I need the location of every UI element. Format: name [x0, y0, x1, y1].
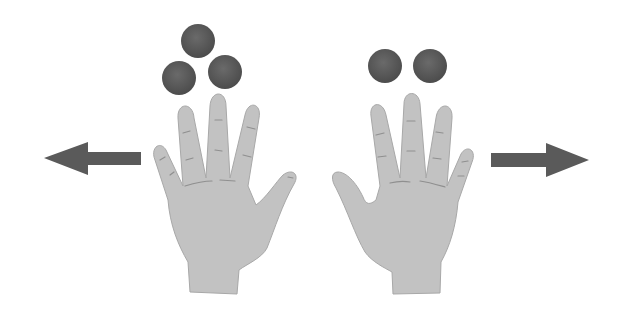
right-ball-group	[368, 49, 447, 83]
arrow-right-icon	[491, 143, 589, 177]
left-ball-group	[162, 24, 242, 95]
ball-icon	[368, 49, 402, 83]
ball-icon	[413, 49, 447, 83]
left-hand-icon	[154, 94, 296, 294]
ball-icon	[181, 24, 215, 58]
arrow-left-icon	[44, 142, 141, 175]
ball-icon	[208, 55, 242, 89]
counting-hands-illustration	[0, 0, 624, 318]
right-hand-icon	[332, 94, 473, 295]
ball-icon	[162, 61, 196, 95]
